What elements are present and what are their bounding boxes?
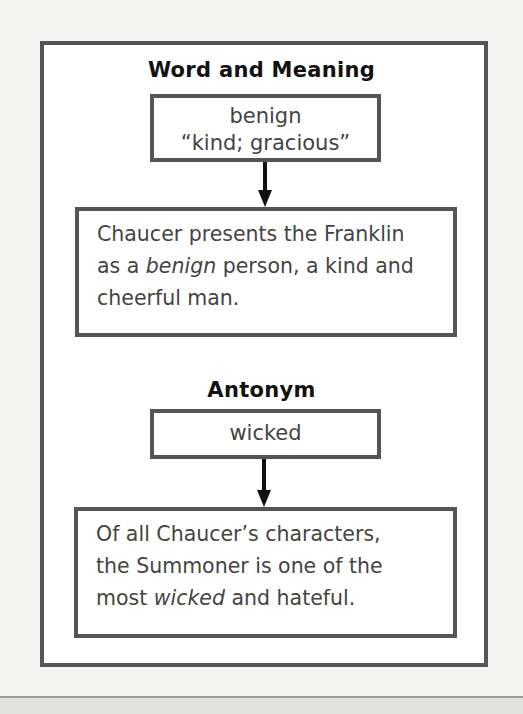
example-emphasis: wicked [154, 586, 225, 610]
example-line-3: cheerful man. [97, 282, 453, 314]
example-line-2: the Summoner is one of the [96, 550, 453, 582]
example-line-2: as a benign person, a kind and [97, 250, 453, 282]
example-line-3: most wicked and hateful. [96, 582, 453, 614]
example-line-1: Of all Chaucer’s characters, [96, 518, 453, 550]
antonym-word: wicked [154, 420, 377, 447]
word-box: benign “kind; gracious” [150, 94, 381, 162]
page-bottom-band [0, 696, 523, 714]
example-line-1: Chaucer presents the Franklin [97, 218, 453, 250]
arrow-down-icon [257, 459, 271, 507]
antonym-box: wicked [150, 409, 381, 459]
word-meaning-heading: Word and Meaning [0, 58, 523, 82]
vocabulary-word: benign [154, 103, 377, 130]
word-meaning: “kind; gracious” [154, 130, 377, 157]
antonym-heading: Antonym [0, 378, 523, 402]
antonym-example-box: Of all Chaucer’s characters, the Summone… [74, 507, 457, 638]
word-example-box: Chaucer presents the Franklin as a benig… [75, 207, 457, 337]
example-emphasis: benign [146, 254, 216, 278]
arrow-down-icon [258, 162, 272, 207]
